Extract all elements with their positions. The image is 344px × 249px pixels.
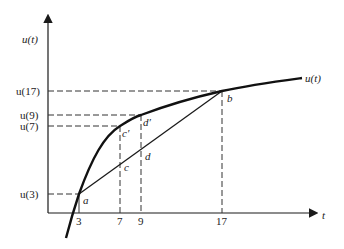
chord-ab [79, 91, 222, 194]
point-c-prime: c′ [122, 127, 130, 139]
x-axis-label: t [322, 209, 326, 221]
point-c: c [124, 161, 129, 173]
point-d-prime: d′ [143, 116, 152, 128]
x-tick-7: 7 [117, 215, 123, 227]
point-b: b [227, 92, 233, 104]
y-tick-u3: u(3) [20, 188, 39, 201]
point-a: a [83, 194, 89, 206]
point-d: d [145, 150, 151, 162]
y-tick-u17: u(17) [16, 85, 40, 98]
y-axis-label: u(t) [22, 33, 38, 46]
x-tick-9: 9 [138, 215, 144, 227]
utility-diagram: u(t) t u(t) u(17) u(9) u(7) u(3) 3 7 9 1… [0, 0, 344, 249]
utility-curve [66, 78, 302, 238]
y-tick-u7: u(7) [20, 120, 39, 133]
x-tick-3: 3 [76, 215, 82, 227]
x-tick-17: 17 [216, 215, 228, 227]
curve-label: u(t) [305, 72, 321, 85]
